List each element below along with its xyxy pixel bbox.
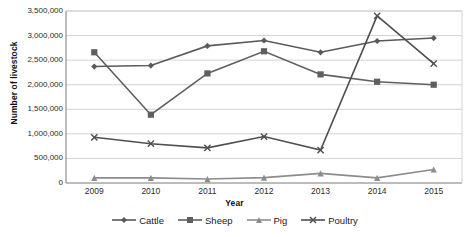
data-point-diamond	[317, 49, 323, 55]
data-point-cross	[374, 13, 380, 19]
legend-label: Poultry	[328, 215, 358, 226]
legend-label: Pig	[274, 215, 288, 226]
legend-marker-diamond-icon	[111, 214, 137, 226]
legend-marker-triangle-icon	[246, 214, 272, 226]
x-axis-title: Year	[0, 198, 469, 208]
chart-legend: CattleSheepPigPoultry	[0, 214, 469, 226]
legend-marker-square-icon	[177, 214, 203, 226]
data-point-square	[187, 217, 193, 223]
series-line	[94, 51, 433, 114]
data-point-square	[148, 112, 154, 118]
x-tick-label: 2015	[406, 186, 462, 196]
series-pig	[91, 166, 437, 182]
data-point-diamond	[91, 63, 97, 69]
legend-item-sheep[interactable]: Sheep	[177, 214, 232, 226]
x-tick-label: 2010	[123, 186, 179, 196]
y-tick-label: 1,000,000	[5, 130, 63, 138]
legend-marker-cross-icon	[300, 214, 326, 226]
data-point-square	[431, 82, 437, 88]
data-point-diamond	[148, 62, 154, 68]
data-point-square	[317, 71, 323, 77]
legend-item-pig[interactable]: Pig	[246, 214, 288, 226]
data-point-square	[91, 49, 97, 55]
x-tick-label: 2011	[179, 186, 235, 196]
data-point-diamond	[261, 37, 267, 43]
y-tick-label: 2,500,000	[5, 56, 63, 64]
legend-label: Cattle	[139, 215, 164, 226]
data-point-diamond	[204, 43, 210, 49]
series-line	[94, 16, 433, 150]
x-tick-label: 2013	[293, 186, 349, 196]
y-tick-label: 1,500,000	[5, 105, 63, 113]
data-point-square	[261, 48, 267, 54]
y-tick-label: 500,000	[5, 154, 63, 162]
legend-item-poultry[interactable]: Poultry	[300, 214, 358, 226]
series-poultry	[91, 13, 437, 153]
y-tick-label: 3,500,000	[5, 7, 63, 15]
x-tick-label: 2012	[236, 186, 292, 196]
x-tick-label: 2014	[349, 186, 405, 196]
data-point-square	[204, 70, 210, 76]
y-tick-label: 3,000,000	[5, 32, 63, 40]
data-point-diamond	[374, 38, 380, 44]
data-point-cross	[431, 60, 437, 66]
data-point-square	[374, 79, 380, 85]
series-sheep	[91, 48, 437, 118]
data-point-diamond	[121, 217, 127, 223]
y-tick-label: 2,000,000	[5, 81, 63, 89]
livestock-line-chart: Number of livestock 0500,0001,000,0001,5…	[0, 0, 469, 237]
x-tick-label: 2009	[66, 186, 122, 196]
legend-label: Sheep	[205, 215, 232, 226]
legend-item-cattle[interactable]: Cattle	[111, 214, 164, 226]
y-tick-label: 0	[5, 179, 63, 187]
